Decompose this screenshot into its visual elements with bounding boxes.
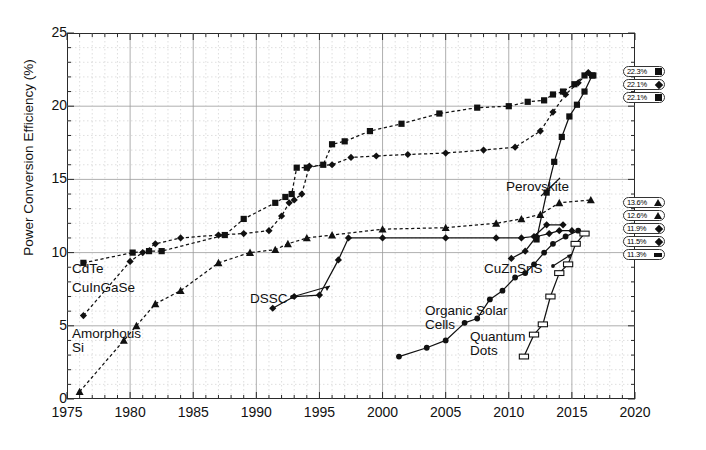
x-tick-1975: 1975 <box>37 404 97 420</box>
annotation-perov: Perovskite <box>506 180 569 194</box>
record-value: 13.6% <box>627 198 647 207</box>
record-value: 22.1% <box>627 93 647 102</box>
record-value: 22.3% <box>627 67 647 76</box>
record-value: 12.6% <box>627 211 647 220</box>
x-tick-2020: 2020 <box>605 404 665 420</box>
x-tick-1985: 1985 <box>163 404 223 420</box>
record-label-3: 13.6% <box>623 197 665 208</box>
annotation-organic: Organic Solar <box>425 304 508 318</box>
annotation-amorph2: Si <box>72 341 84 355</box>
record-marker-di <box>655 237 663 245</box>
record-label-4: 12.6% <box>623 210 665 221</box>
annotation-organic2: Cells <box>425 318 455 332</box>
y-tick-20: 20 <box>27 97 67 113</box>
record-marker-sq <box>655 68 662 75</box>
record-value: 11.3% <box>627 250 646 259</box>
record-marker-di <box>655 224 663 232</box>
record-marker-di <box>655 80 663 88</box>
y-tick-5: 5 <box>27 317 67 333</box>
annotation-amorph: Amorphous <box>72 327 141 341</box>
annotation-cdte: CdTe <box>72 262 104 276</box>
record-label-1: 22.1% <box>623 79 665 90</box>
x-tick-2015: 2015 <box>542 404 602 420</box>
annotation-czts: CuZnSnS <box>484 262 543 276</box>
y-tick-10: 10 <box>27 244 67 260</box>
x-tick-2000: 2000 <box>353 404 413 420</box>
record-label-6: 11.5% <box>623 236 665 247</box>
record-marker-tr <box>654 212 662 219</box>
chart-stage: Power Conversion Efficiency (%) 05101520… <box>0 0 706 450</box>
x-tick-1990: 1990 <box>226 404 286 420</box>
record-label-5: 11.9% <box>623 223 665 234</box>
x-tick-1995: 1995 <box>289 404 349 420</box>
record-marker-tr <box>654 199 662 206</box>
annotation-cigs: CuInGaSe <box>72 281 135 295</box>
annotation-qd: Quantum <box>470 330 526 344</box>
record-label-2: 22.1% <box>623 92 665 103</box>
record-value: 11.9% <box>627 224 646 233</box>
x-tick-1980: 1980 <box>100 404 160 420</box>
x-tick-2005: 2005 <box>416 404 476 420</box>
y-tick-25: 25 <box>27 24 67 40</box>
record-label-7: 11.3% <box>623 249 665 260</box>
y-tick-15: 15 <box>27 170 67 186</box>
annotation-dssc: DSSC <box>250 292 288 306</box>
record-marker-ba <box>654 253 662 257</box>
record-marker-sq <box>655 94 662 101</box>
leader-line-layer <box>0 0 706 450</box>
record-label-0: 22.3% <box>623 66 665 77</box>
record-value: 11.5% <box>627 237 646 246</box>
annotation-qd2: Dots <box>470 344 498 358</box>
x-tick-2010: 2010 <box>479 404 539 420</box>
record-value: 22.1% <box>627 80 647 89</box>
